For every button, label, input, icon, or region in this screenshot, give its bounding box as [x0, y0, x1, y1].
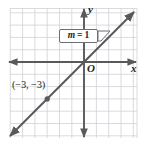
origin-label: O	[87, 63, 95, 74]
slope-variable: m	[68, 30, 75, 40]
x-axis-label: x	[131, 63, 137, 74]
coordinate-graph-figure: m=1 y x O (−3, −3)	[0, 0, 145, 146]
slope-value: 1	[85, 30, 90, 40]
slope-callout-box: m=1	[59, 29, 98, 43]
point-marker	[45, 96, 50, 101]
y-axis-label: y	[88, 4, 93, 15]
graph-canvas	[0, 0, 145, 146]
point-coordinate-label: (−3, −3)	[12, 80, 45, 91]
slope-callout-label: m=1	[68, 31, 90, 41]
slope-equals: =	[77, 30, 82, 40]
